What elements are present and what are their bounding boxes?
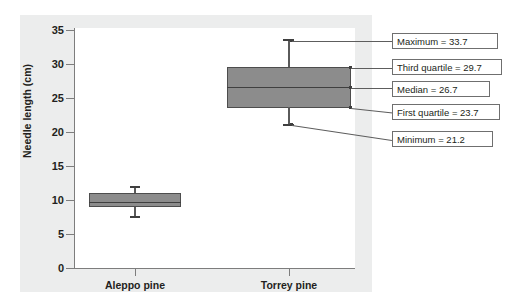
- y-tick-label-10: 10: [20, 195, 64, 206]
- aleppo-lower-whisker-cap: [130, 216, 140, 218]
- plot-area: [74, 28, 355, 269]
- y-tick-15: [66, 166, 74, 167]
- callout-third-quartile: Third quartile = 29.7: [392, 59, 502, 75]
- callout-median: Median = 26.7: [392, 81, 490, 97]
- x-tick-aleppo: [135, 269, 136, 276]
- x-tick-torrey: [289, 269, 290, 276]
- torrey-upper-whisker: [288, 39, 290, 69]
- callout-maximum: Maximum = 33.7: [392, 33, 498, 49]
- y-tick-label-5: 5: [20, 229, 64, 240]
- y-tick-0: [66, 268, 74, 269]
- boxplot-figure: 35 30 25 20 15 10 5 0 Needle length (cm)…: [0, 0, 505, 306]
- maximum-leader-line: [292, 41, 392, 42]
- callout-minimum: Minimum = 21.2: [392, 131, 493, 147]
- aleppo-median-line: [89, 202, 181, 203]
- y-tick-25: [66, 98, 74, 99]
- aleppo-upper-whisker-cap: [130, 186, 140, 188]
- y-tick-5: [66, 234, 74, 235]
- torrey-median-line: [227, 87, 351, 88]
- y-tick-30: [66, 64, 74, 65]
- aleppo-box: [89, 193, 181, 207]
- callout-first-quartile: First quartile = 23.7: [392, 104, 500, 120]
- x-axis-label-aleppo-pine: Aleppo pine: [85, 279, 185, 291]
- third-quartile-leader-line: [351, 68, 392, 69]
- y-tick-10: [66, 200, 74, 201]
- y-tick-label-35: 35: [20, 25, 64, 36]
- y-axis-title: Needle length (cm): [21, 36, 33, 186]
- y-tick-35: [66, 30, 74, 31]
- median-leader-line: [351, 88, 392, 89]
- y-tick-label-0: 0: [20, 263, 64, 274]
- x-axis-label-torrey-pine: Torrey pine: [239, 279, 339, 291]
- y-tick-20: [66, 132, 74, 133]
